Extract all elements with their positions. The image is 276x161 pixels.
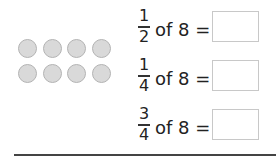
counter: [92, 39, 111, 58]
counter: [67, 39, 86, 58]
numerator: 1: [138, 57, 150, 74]
counter: [18, 39, 37, 58]
answer-box[interactable]: [212, 11, 259, 42]
denominator: 2: [138, 29, 150, 46]
counter: [67, 64, 86, 83]
fraction: 3 4: [138, 106, 150, 144]
counter: [92, 64, 111, 83]
answer-box[interactable]: [212, 109, 259, 140]
counter: [18, 64, 37, 83]
question-row-1: 1 2 of 8 =: [133, 8, 273, 52]
numerator: 3: [138, 106, 150, 123]
denominator: 4: [138, 127, 150, 144]
numerator: 1: [138, 8, 150, 25]
counter: [43, 39, 62, 58]
answer-box[interactable]: [212, 60, 259, 91]
divider-line: [14, 154, 276, 156]
fraction: 1 2: [138, 8, 150, 46]
fraction: 1 4: [138, 57, 150, 95]
expression-text: of 8 =: [155, 19, 210, 40]
question-row-3: 3 4 of 8 =: [133, 106, 273, 150]
denominator: 4: [138, 78, 150, 95]
question-row-2: 1 4 of 8 =: [133, 57, 273, 101]
expression-text: of 8 =: [155, 68, 210, 89]
counter: [43, 64, 62, 83]
expression-text: of 8 =: [155, 117, 210, 138]
